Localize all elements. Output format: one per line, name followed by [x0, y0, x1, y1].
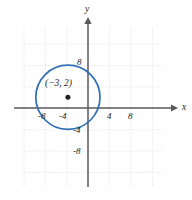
graph-canvas: [0, 0, 192, 200]
axes: [14, 17, 178, 187]
x-axis-arrow-icon: [171, 104, 178, 111]
y-tick-label-neg8: -8: [73, 147, 81, 156]
grid-lines: [24, 28, 163, 186]
y-tick-label-neg4: -4: [73, 126, 81, 135]
x-axis-label: x: [182, 103, 186, 113]
x-tick-label-4: 4: [107, 112, 112, 121]
x-tick-label-neg4: -4: [59, 112, 67, 121]
coordinate-plane-figure: -8 -4 4 8 8 -4 -8 x y (−3, 2): [0, 0, 192, 200]
x-tick-label-neg8: -8: [38, 112, 46, 121]
center-point-marker: [65, 95, 70, 100]
center-point-dot: [65, 95, 70, 100]
y-axis-label: y: [85, 5, 89, 15]
x-tick-label-8: 8: [128, 112, 133, 121]
circle-center-label: (−3, 2): [45, 79, 72, 89]
y-axis-arrow-icon: [84, 17, 91, 24]
y-tick-label-8: 8: [77, 58, 82, 67]
